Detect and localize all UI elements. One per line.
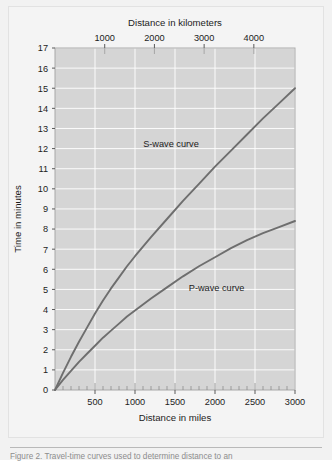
y-axis-tick-label: 13 [38, 124, 48, 134]
y-axis-tick-label: 11 [38, 164, 48, 174]
travel-time-curve-chart: 5001000150020002500300010002000300040000… [0, 0, 332, 440]
y-axis-tick-label: 2 [43, 345, 48, 355]
y-axis-tick-label: 4 [43, 305, 48, 315]
x-axis-tick-label: 2500 [245, 397, 265, 407]
x-axis-top-tick-label: 1000 [94, 33, 114, 43]
y-axis-tick-label: 10 [38, 184, 48, 194]
y-axis-tick-label: 5 [43, 285, 48, 295]
x-axis-tick-label: 500 [87, 397, 102, 407]
curve-annotation-p-wave-curve: P-wave curve [189, 283, 245, 293]
y-axis-tick-label: 9 [43, 204, 48, 214]
x-axis-tick-label: 1000 [125, 397, 145, 407]
y-axis-title: Time in minutes [12, 185, 23, 253]
x-axis-tick-label: 2000 [205, 397, 225, 407]
y-axis-tick-label: 16 [38, 64, 48, 74]
y-axis-tick-label: 17 [38, 43, 48, 53]
caption-divider [10, 447, 322, 448]
x-axis-title: Distance in miles [139, 412, 212, 423]
x-axis-top-title: Distance in kilometers [128, 17, 222, 28]
x-axis-tick-label: 1500 [165, 397, 185, 407]
x-axis-top-tick-label: 2000 [144, 33, 164, 43]
y-axis-tick-label: 6 [43, 265, 48, 275]
x-axis-top-tick-label: 4000 [244, 33, 264, 43]
y-axis-tick-label: 3 [43, 325, 48, 335]
y-axis-tick-label: 12 [38, 144, 48, 154]
y-axis-tick-label: 0 [43, 385, 48, 395]
y-axis-tick-label: 14 [38, 104, 48, 114]
y-axis-tick-label: 1 [43, 365, 48, 375]
x-axis-top-tick-label: 3000 [194, 33, 214, 43]
y-axis-tick-label: 7 [43, 245, 48, 255]
y-axis-tick-label: 8 [43, 224, 48, 234]
x-axis-tick-label: 3000 [285, 397, 305, 407]
curve-annotation-s-wave-curve: S-wave curve [143, 139, 199, 149]
figure-caption: Figure 2. Travel-time curves used to det… [10, 452, 326, 462]
y-axis-tick-label: 15 [38, 84, 48, 94]
